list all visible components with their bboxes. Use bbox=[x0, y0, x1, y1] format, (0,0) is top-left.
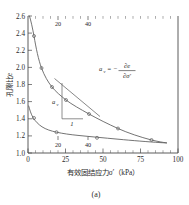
y-tick-label: 2.0 bbox=[16, 64, 25, 72]
inner-top-tick-label: 20 bbox=[55, 20, 61, 27]
inner-bottom-tick-label: 40 bbox=[85, 141, 91, 148]
x-axis-title: 有效固结应力σ′（kPa） bbox=[67, 168, 140, 177]
figure-container: 1.0 1.2 1.4 1.6 1.8 2.0 2.2 2.4 2.6 bbox=[0, 0, 189, 205]
formula-a-symbol: a bbox=[99, 65, 103, 72]
bottom-inner-tick-labels: 20 40 bbox=[55, 141, 91, 148]
inner-top-tick-label: 40 bbox=[85, 20, 91, 27]
figure-caption: (a) bbox=[92, 190, 101, 199]
bottom-inner-ticks bbox=[58, 136, 88, 140]
x-axis-tick-labels: 0 25 50 75 100 bbox=[26, 156, 184, 164]
x-tick-label: 25 bbox=[62, 156, 70, 164]
compressibility-formula: a v = − ∂e ∂σ′ bbox=[99, 62, 136, 79]
consolidation-curve-chart: 1.0 1.2 1.4 1.6 1.8 2.0 2.2 2.4 2.6 bbox=[0, 0, 189, 205]
x-tick-label: 50 bbox=[99, 156, 107, 164]
formula-equals: = bbox=[107, 65, 111, 72]
y-tick-label: 2.6 bbox=[16, 13, 25, 21]
tangent-line bbox=[55, 79, 101, 117]
slope-triangle-horizontal-label: 1 bbox=[70, 120, 73, 127]
y-axis-tick-labels: 1.0 1.2 1.4 1.6 1.8 2.0 2.2 2.4 2.6 bbox=[16, 13, 25, 158]
upper-curve-markers bbox=[33, 35, 154, 142]
formula-a-subscript: v bbox=[103, 69, 106, 74]
y-tick-label: 1.8 bbox=[16, 81, 25, 89]
x-tick-label: 100 bbox=[173, 156, 184, 164]
y-axis-title: 孔隙比e bbox=[5, 72, 14, 97]
formula-minus-sign: − bbox=[113, 65, 117, 72]
lower-curve bbox=[29, 106, 167, 143]
inner-bottom-tick-label: 20 bbox=[55, 141, 61, 148]
y-tick-label: 2.2 bbox=[16, 47, 25, 55]
x-tick-label: 75 bbox=[137, 156, 145, 164]
lower-curve-markers bbox=[33, 117, 99, 140]
y-tick-label: 1.0 bbox=[16, 150, 25, 158]
y-tick-label: 2.4 bbox=[16, 30, 25, 38]
y-tick-label: 1.6 bbox=[16, 98, 25, 106]
y-axis-ticks bbox=[28, 16, 32, 153]
slope-triangle-av-symbol: a bbox=[52, 98, 56, 105]
top-inner-tick-labels: 20 40 bbox=[55, 20, 91, 27]
slope-triangle-av-subscript: v bbox=[57, 102, 60, 107]
upper-curve bbox=[30, 16, 167, 143]
y-tick-label: 1.4 bbox=[16, 115, 25, 123]
formula-denominator: ∂σ′ bbox=[123, 72, 132, 79]
formula-numerator: ∂e bbox=[124, 62, 130, 69]
y-tick-label: 1.2 bbox=[16, 132, 25, 140]
slope-triangle-vertical-label: a v bbox=[52, 98, 60, 107]
x-tick-label: 0 bbox=[26, 156, 30, 164]
